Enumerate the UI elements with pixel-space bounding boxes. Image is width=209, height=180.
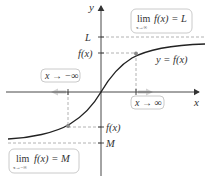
svg-text:lim: lim (137, 13, 151, 24)
svg-text:x → ∞: x → ∞ (134, 97, 162, 108)
label-L: L (84, 32, 91, 43)
svg-text:x→−∞: x→−∞ (13, 165, 27, 170)
svg-text:f(x) = L: f(x) = L (154, 13, 187, 25)
svg-text:x → −∞: x → −∞ (44, 70, 78, 81)
label-M: M (105, 138, 116, 149)
svg-text:f(x) = M: f(x) = M (34, 153, 71, 165)
label-fx-upper: f(x) (78, 48, 93, 60)
limit-box-lower: lim x→−∞ f(x) = M (9, 149, 79, 173)
x-axis-label: x (193, 96, 199, 108)
label-fx-lower: f(x) (106, 122, 121, 134)
approach-box-right: x → ∞ (131, 96, 164, 109)
point-lower (66, 124, 70, 128)
svg-text:lim: lim (16, 153, 30, 164)
approach-box-left: x → −∞ (41, 69, 80, 82)
y-axis-label: y (88, 1, 94, 13)
curve-label: y = f(x) (155, 54, 188, 66)
limit-box-upper: lim x→∞ f(x) = L (131, 9, 192, 33)
point-upper (134, 52, 138, 56)
asymptote-diagram: y x L f(x) f(x) M y = f(x) x → −∞ x → ∞ … (0, 0, 209, 180)
svg-text:x→∞: x→∞ (136, 25, 148, 30)
